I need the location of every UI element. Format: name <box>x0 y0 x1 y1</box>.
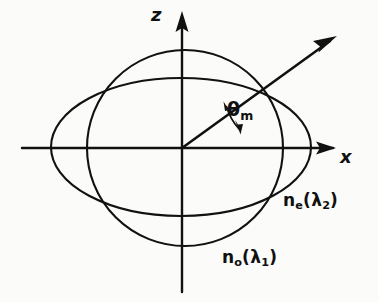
no-lambda: λ <box>250 247 261 267</box>
index-surface-figure: z x θm ne(λ2) no(λ1) <box>0 0 378 302</box>
ne-base: n <box>283 190 295 210</box>
theta-m-label: θm <box>227 100 253 119</box>
ne-paren-open: ( <box>303 190 311 210</box>
z-axis-label: z <box>151 6 161 24</box>
ne-paren-close: ) <box>330 190 338 210</box>
theta-symbol: θ <box>227 98 240 120</box>
no-lambda-subscript: 1 <box>261 256 269 269</box>
ne-lambda-subscript: 2 <box>322 199 330 212</box>
figure-canvas <box>0 0 378 302</box>
ne-subscript: e <box>295 199 303 212</box>
ne-lambda: λ <box>311 190 322 210</box>
no-paren-close: ) <box>269 247 277 267</box>
no-subscript: o <box>234 256 242 269</box>
no-base: n <box>222 247 234 267</box>
extraordinary-index-label: ne(λ2) <box>283 192 338 209</box>
ordinary-index-label: no(λ1) <box>222 249 277 266</box>
x-axis-label: x <box>340 148 352 166</box>
theta-subscript: m <box>240 108 253 123</box>
